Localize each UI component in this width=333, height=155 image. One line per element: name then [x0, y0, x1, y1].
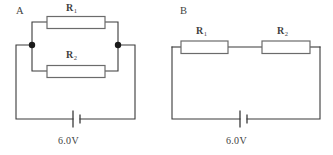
circuit-b-resistor-r1: [181, 41, 228, 54]
circuit-a-r2-right-lead: [105, 45, 118, 71]
circuit-a-r1-right-lead: [105, 22, 118, 45]
circuit-b-r2-label: R2: [277, 26, 288, 36]
circuit-b-r2-label-subscript: 2: [285, 30, 288, 37]
circuit-a-r2-label-subscript: 2: [74, 54, 77, 61]
circuit-diagram-figure: A R1 R2 6.0V B R1 R2 6.0V: [0, 0, 333, 155]
circuit-b-r2-label-text: R: [277, 25, 284, 36]
circuit-a-r1-label: R1: [66, 3, 77, 13]
circuit-a-r2-label-text: R: [66, 49, 73, 60]
circuit-a-left-outer-wire: [16, 45, 73, 119]
circuit-a-junction-dot-right: [115, 42, 121, 48]
circuit-a-r2-left-lead: [32, 45, 47, 71]
circuit-a-resistor-r2: [47, 66, 105, 78]
circuit-b-r1-label-text: R: [196, 25, 203, 36]
circuit-a-right-outer-wire: [80, 45, 135, 119]
circuit-a-voltage-label: 6.0V: [58, 136, 79, 146]
circuit-a-group: [16, 17, 135, 128]
circuit-a-r2-label: R2: [66, 50, 77, 60]
circuit-a-r1-left-lead: [32, 22, 47, 45]
circuit-a-resistor-r1: [47, 17, 105, 29]
circuit-a-junction-dot-left: [29, 42, 35, 48]
circuit-b-left-outer-wire: [172, 47, 240, 119]
circuit-b-right-outer-wire: [247, 47, 320, 119]
circuit-b-voltage-label: 6.0V: [226, 136, 247, 146]
circuit-schematic-canvas: [0, 0, 333, 155]
circuit-b-r1-label-subscript: 1: [204, 30, 207, 37]
circuit-b-resistor-r2: [262, 41, 310, 54]
circuit-b-letter: B: [180, 6, 187, 17]
circuit-a-r1-label-text: R: [66, 2, 73, 13]
circuit-a-r1-label-subscript: 1: [74, 7, 77, 14]
circuit-b-r1-label: R1: [196, 26, 207, 36]
circuit-b-group: [172, 41, 320, 128]
circuit-a-letter: A: [16, 6, 24, 17]
